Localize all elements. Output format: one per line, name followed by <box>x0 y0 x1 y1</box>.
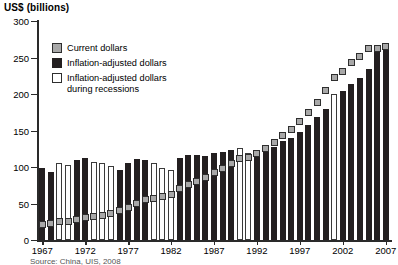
bar-inflation-adjusted <box>305 125 311 240</box>
bar-inflation-adjusted <box>177 158 183 240</box>
bar-inflation-adjusted <box>254 153 260 240</box>
marker-current-dollars <box>65 218 72 225</box>
y-tick-label: 150 <box>13 125 29 136</box>
bar-inflation-adjusted <box>74 160 80 240</box>
marker-current-dollars <box>219 165 226 172</box>
y-tick <box>31 94 38 95</box>
marker-current-dollars <box>82 214 89 221</box>
bar-group <box>202 21 208 240</box>
bar-group <box>228 21 234 240</box>
y-tick-label: 250 <box>13 52 29 63</box>
marker-current-dollars <box>288 126 295 133</box>
y-tick-label: 100 <box>13 162 29 173</box>
marker-current-dollars <box>202 174 209 181</box>
bar-inflation-adjusted <box>185 155 191 240</box>
marker-current-dollars <box>253 150 260 157</box>
bar-group <box>348 21 354 240</box>
bar-inflation-adjusted-recession <box>237 148 243 240</box>
bar-inflation-adjusted-recession <box>108 166 114 240</box>
bar-group <box>331 21 337 240</box>
marker-current-dollars <box>90 213 97 220</box>
y-tick-label: 50 <box>18 198 29 209</box>
bar-inflation-adjusted <box>288 138 294 240</box>
marker-current-dollars <box>314 99 321 106</box>
bar-inflation-adjusted-recession <box>245 153 251 240</box>
y-tick <box>31 131 38 132</box>
x-tick-label: 1967 <box>32 245 53 256</box>
bar-group <box>220 21 226 240</box>
chart-legend: Current dollars Inflation-adjusted dolla… <box>52 43 167 99</box>
x-tick-label: 1987 <box>203 245 224 256</box>
marker-current-dollars <box>322 87 329 94</box>
marker-current-dollars <box>356 53 363 60</box>
marker-current-dollars <box>150 195 157 202</box>
marker-current-dollars <box>211 169 218 176</box>
legend-item-inflation-adjusted: Inflation-adjusted dollars <box>52 58 167 69</box>
bar-inflation-adjusted <box>323 109 329 240</box>
bar-inflation-adjusted-recession <box>91 162 97 240</box>
marker-current-dollars <box>348 59 355 66</box>
bar-inflation-adjusted-recession <box>331 94 337 240</box>
bar-inflation-adjusted <box>271 147 277 240</box>
bar-inflation-adjusted <box>366 69 372 240</box>
recession-swatch <box>52 73 62 83</box>
legend-item-current-dollars: Current dollars <box>52 43 167 54</box>
bar-group <box>194 21 200 240</box>
legend-label: Current dollars <box>67 43 127 54</box>
bar-group <box>211 21 217 240</box>
bar-inflation-adjusted-recession <box>65 165 71 240</box>
marker-current-dollars <box>107 210 114 217</box>
bar-group <box>288 21 294 240</box>
x-tick-label: 1977 <box>118 245 139 256</box>
marker-current-dollars <box>47 220 54 227</box>
y-axis-labels: 050100150200250300 <box>0 0 29 265</box>
bar-inflation-adjusted-recession <box>99 163 105 240</box>
x-tick-label: 1992 <box>246 245 267 256</box>
marker-current-dollars <box>271 139 278 146</box>
marker-current-dollars <box>193 178 200 185</box>
bar-group <box>357 21 363 240</box>
bar-group <box>383 21 389 240</box>
bar-group <box>254 21 260 240</box>
bar-group <box>271 21 277 240</box>
bar-inflation-adjusted <box>280 141 286 240</box>
marker-current-dollars <box>168 191 175 198</box>
y-tick <box>31 240 38 241</box>
legend-label: Inflation-adjusted dollars <box>67 58 167 69</box>
y-tick <box>31 58 38 59</box>
marker-current-dollars <box>133 200 140 207</box>
marker-current-dollars <box>236 155 243 162</box>
y-tick-label: 0 <box>24 235 29 246</box>
bar-inflation-adjusted-recession <box>56 163 62 240</box>
y-tick <box>31 204 38 205</box>
marker-current-dollars <box>99 212 106 219</box>
bar-inflation-adjusted <box>374 49 380 240</box>
chart-figure: US$ (billions) 050100150200250300 196719… <box>0 0 398 265</box>
marker-current-dollars <box>56 218 63 225</box>
bar-inflation-adjusted <box>297 132 303 240</box>
bar-inflation-adjusted <box>48 172 54 240</box>
marker-current-dollars <box>331 74 338 81</box>
bar-inflation-adjusted <box>383 47 389 240</box>
marker-current-dollars <box>374 45 381 52</box>
bar-inflation-adjusted <box>39 168 45 240</box>
marker-current-dollars <box>176 185 183 192</box>
marker-current-dollars <box>305 109 312 116</box>
bar-group <box>39 21 45 240</box>
marker-current-dollars <box>116 207 123 214</box>
bar-inflation-adjusted <box>314 117 320 240</box>
y-tick-label: 200 <box>13 89 29 100</box>
bar-group <box>185 21 191 240</box>
marker-current-dollars <box>262 145 269 152</box>
bar-inflation-adjusted <box>125 163 131 240</box>
bar-inflation-adjusted <box>357 78 363 240</box>
current-dollars-swatch <box>52 43 62 53</box>
bar-group <box>305 21 311 240</box>
x-tick-label: 2002 <box>332 245 353 256</box>
marker-current-dollars <box>228 160 235 167</box>
marker-current-dollars <box>125 204 132 211</box>
bar-group <box>280 21 286 240</box>
bar-inflation-adjusted <box>340 91 346 240</box>
bar-inflation-adjusted-recession <box>159 168 165 240</box>
marker-current-dollars <box>339 68 346 75</box>
